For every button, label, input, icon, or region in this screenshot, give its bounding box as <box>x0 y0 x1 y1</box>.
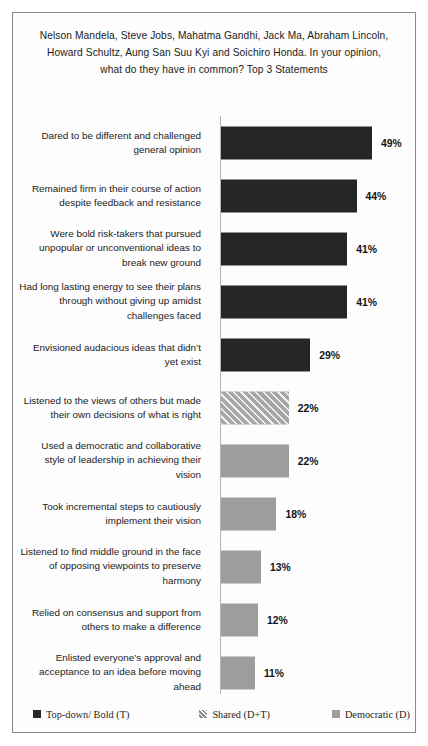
bar <box>221 656 255 689</box>
category-label: Enlisted everyone’s approval and accepta… <box>19 651 209 695</box>
bar <box>221 285 347 318</box>
bar-row: Relied on consensus and support from oth… <box>13 593 415 646</box>
bar-row: Enlisted everyone’s approval and accepta… <box>13 646 415 699</box>
bar <box>221 232 347 265</box>
bar-with-value: 11% <box>221 656 284 689</box>
legend-item-shared[interactable]: Shared (D+T) <box>199 709 270 720</box>
legend-label: Top-down/ Bold (T) <box>46 709 129 720</box>
category-label: Remained firm in their course of action … <box>19 181 209 210</box>
bar-row: Used a democratic and collaborative styl… <box>13 434 415 487</box>
legend-swatch-icon <box>33 710 41 718</box>
bar-value-label: 11% <box>264 667 284 678</box>
category-label: Took incremental steps to cautiously imp… <box>19 499 209 528</box>
legend-swatch-icon <box>199 710 207 718</box>
bar-with-value: 18% <box>221 497 306 530</box>
bar-value-label: 41% <box>356 296 377 307</box>
bar-row: Envisioned audacious ideas that didn’t y… <box>13 328 415 381</box>
bar-value-label: 49% <box>381 137 402 148</box>
chart-legend: Top-down/ Bold (T)Shared (D+T)Democratic… <box>13 703 415 725</box>
legend-item-democratic[interactable]: Democratic (D) <box>332 709 410 720</box>
legend-swatch-icon <box>332 710 340 718</box>
bar-value-label: 18% <box>285 508 306 519</box>
chart-plot-area: Dared to be different and challenged gen… <box>13 116 415 694</box>
bar-value-label: 13% <box>270 561 291 572</box>
bar-with-value: 13% <box>221 550 291 583</box>
bar-with-value: 29% <box>221 338 340 371</box>
category-label: Had long lasting energy to see their pla… <box>19 280 209 324</box>
bar-row: Listened to the views of others but made… <box>13 381 415 434</box>
bar-value-label: 41% <box>356 243 377 254</box>
category-label: Envisioned audacious ideas that didn’t y… <box>19 340 209 369</box>
bar-row: Listened to find middle ground in the fa… <box>13 540 415 593</box>
bar-row: Had long lasting energy to see their pla… <box>13 275 415 328</box>
bar <box>221 497 276 530</box>
bar-with-value: 22% <box>221 391 319 424</box>
bar-with-value: 44% <box>221 179 386 212</box>
bar-row: Dared to be different and challenged gen… <box>13 116 415 169</box>
bar-row: Remained firm in their course of action … <box>13 169 415 222</box>
bar-row: Took incremental steps to cautiously imp… <box>13 487 415 540</box>
bar <box>221 338 310 371</box>
category-label: Dared to be different and challenged gen… <box>19 128 209 157</box>
category-label: Were bold risk-takers that pursued unpop… <box>19 227 209 271</box>
legend-item-top-down[interactable]: Top-down/ Bold (T) <box>33 709 129 720</box>
bar-value-label: 22% <box>298 455 319 466</box>
legend-label: Democratic (D) <box>345 709 410 720</box>
bar <box>221 444 289 477</box>
bar-value-label: 22% <box>298 402 319 413</box>
bar-with-value: 12% <box>221 603 288 636</box>
bar-row: Were bold risk-takers that pursued unpop… <box>13 222 415 275</box>
bar <box>221 603 258 636</box>
bar-value-label: 29% <box>319 349 340 360</box>
bar-with-value: 41% <box>221 285 377 318</box>
category-label: Used a democratic and collaborative styl… <box>19 439 209 483</box>
bar <box>221 550 261 583</box>
chart-title: Nelson Mandela, Steve Jobs, Mahatma Gand… <box>39 27 389 78</box>
legend-label: Shared (D+T) <box>212 709 270 720</box>
bar-value-label: 44% <box>366 190 387 201</box>
bar <box>221 391 289 424</box>
bar-value-label: 12% <box>267 614 288 625</box>
bar <box>221 126 372 159</box>
category-label: Relied on consensus and support from oth… <box>19 605 209 634</box>
category-label: Listened to find middle ground in the fa… <box>19 545 209 589</box>
category-label: Listened to the views of others but made… <box>19 393 209 422</box>
chart-frame: Nelson Mandela, Steve Jobs, Mahatma Gand… <box>12 12 416 733</box>
bar-with-value: 49% <box>221 126 402 159</box>
bar-with-value: 22% <box>221 444 319 477</box>
bar <box>221 179 357 212</box>
bar-with-value: 41% <box>221 232 377 265</box>
